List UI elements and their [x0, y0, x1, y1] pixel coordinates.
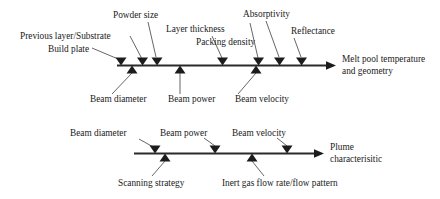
branch-arrowhead-layer-thickness [217, 58, 228, 66]
cause-label-build-plate: Build plate [48, 44, 89, 54]
branch-arrowhead-absorptivity [274, 58, 285, 66]
effect-label-melt-pool-line2: and geometry [342, 66, 393, 76]
diagram-melt-pool: Previous layer/Substrate Build plate Pow… [20, 9, 425, 104]
branch-arrowhead-build-plate [116, 58, 127, 66]
branch-line-reflectance [294, 38, 301, 57]
spine-arrowhead-plume [314, 149, 324, 157]
diagram-plume: Beam diameter Beam power Beam velocity S… [70, 128, 382, 188]
fishbone-diagram-figure: Previous layer/Substrate Build plate Pow… [0, 0, 440, 199]
branch-arrowhead-beam-power-2 [210, 146, 221, 154]
cause-label-inert-gas-flow-rate: Inert gas flow rate/flow pattern [222, 178, 338, 188]
cause-label-beam-velocity-1: Beam velocity [235, 94, 289, 104]
cause-label-absorptivity: Absorptivity [243, 9, 290, 19]
spine-arrowhead-melt-pool [326, 61, 336, 69]
branch-line-beam-power-2 [204, 138, 215, 146]
branch-arrowhead-previous-layer [137, 58, 148, 66]
cause-label-beam-power-2: Beam power [160, 128, 208, 138]
branch-line-powder-size [148, 22, 156, 57]
branch-arrowhead-beam-velocity-2 [282, 146, 293, 154]
cause-label-packing-density: Packing density [196, 37, 255, 47]
branch-arrowhead-beam-velocity-1 [251, 66, 262, 74]
branch-arrowhead-scanning-strategy [160, 154, 171, 162]
branch-arrowhead-beam-diameter-1 [127, 66, 138, 74]
cause-label-layer-thickness: Layer thickness [166, 24, 225, 34]
cause-label-previous-layer-substrate: Previous layer/Substrate [20, 31, 111, 41]
branch-line-scanning-strategy [152, 161, 165, 176]
diagram-canvas: Previous layer/Substrate Build plate Pow… [0, 0, 440, 199]
branch-arrowhead-beam-diameter-2 [150, 146, 161, 154]
branch-line-absorptivity [266, 21, 279, 57]
cause-label-powder-size: Powder size [113, 10, 158, 20]
effect-label-plume-line1: Plume [330, 142, 354, 152]
branch-arrowhead-reflectance [296, 58, 307, 66]
branch-line-beam-diameter-1 [112, 73, 132, 94]
branch-line-beam-velocity-1 [238, 73, 256, 94]
cause-label-beam-power-1: Beam power [168, 94, 216, 104]
branch-line-inert-gas-flow [252, 161, 264, 176]
branch-line-previous-layer [130, 36, 142, 58]
effect-label-plume-line2: characterisitic [330, 154, 382, 164]
effect-label-melt-pool-line1: Melt pool temperature [342, 54, 425, 64]
cause-label-reflectance: Reflectance [291, 26, 335, 36]
cause-label-beam-diameter-1: Beam diameter [90, 94, 147, 104]
branch-arrowhead-packing-density [253, 58, 264, 66]
branch-arrowhead-inert-gas-flow [247, 154, 258, 162]
cause-label-scanning-strategy: Scanning strategy [118, 178, 185, 188]
branch-arrowhead-powder-size [152, 58, 163, 66]
cause-label-beam-diameter-2: Beam diameter [70, 128, 127, 138]
cause-label-beam-velocity-2: Beam velocity [232, 128, 286, 138]
branch-arrowhead-beam-power-1 [175, 66, 186, 74]
branch-line-beam-velocity-2 [277, 138, 287, 146]
